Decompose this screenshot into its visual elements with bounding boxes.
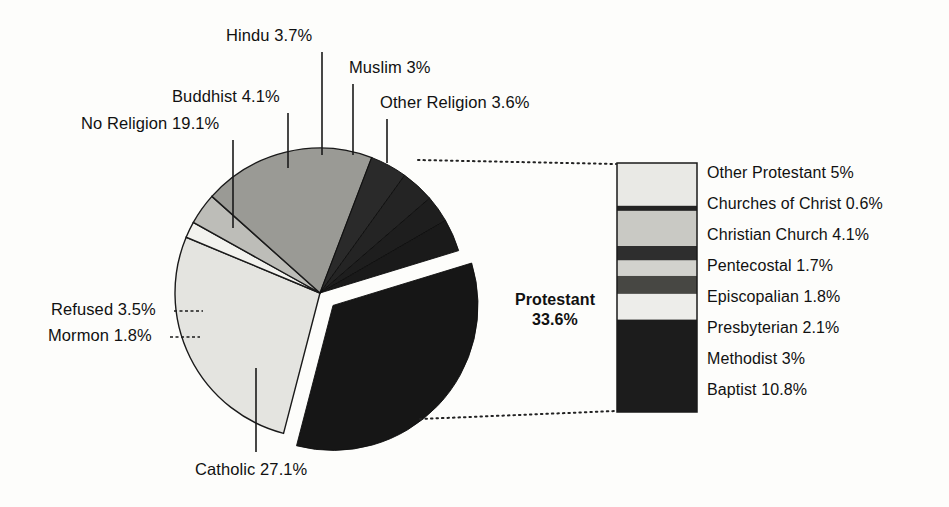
label-buddhist: Buddhist 4.1% [172,87,280,105]
label-hindu: Hindu 3.7% [226,26,312,44]
bar-segment-methodist[interactable] [617,294,697,320]
connector-bottom [420,411,616,419]
bar-segment-pentecostal[interactable] [617,246,697,261]
legend-item-churches-of-christ: Churches of Christ 0.6% [707,195,883,213]
bar-segment-christian-church[interactable] [617,211,697,246]
chart-canvas [0,0,949,507]
bar-segment-churches-of-christ[interactable] [617,206,697,211]
legend-item-episcopalian: Episcopalian 1.8% [707,288,840,306]
label-refused: Refused 3.5% [51,300,156,318]
label-muslim: Muslim 3% [349,58,431,76]
legend-item-christian-church: Christian Church 4.1% [707,226,869,244]
legend-item-baptist: Baptist 10.8% [707,381,807,399]
bar-segment-presbyterian[interactable] [617,276,697,294]
label-no-religion: No Religion 19.1% [81,114,219,132]
label-protestant-name: Protestant [515,291,595,308]
legend-item-other-protestant: Other Protestant 5% [707,164,854,182]
label-catholic: Catholic 27.1% [195,460,307,478]
pie-group [175,148,478,450]
pie-chart-figure: No Religion 19.1% Buddhist 4.1% Hindu 3.… [0,0,949,507]
bar-segment-other-protestant[interactable] [617,163,697,206]
label-other-religion: Other Religion 3.6% [380,93,530,111]
label-mormon: Mormon 1.8% [48,326,152,344]
label-protestant: Protestant 33.6% [500,290,610,330]
protestant-stacked-bar [617,163,697,412]
connector-top [418,160,616,164]
bar-segment-baptist[interactable] [617,320,697,412]
legend-item-methodist: Methodist 3% [707,350,805,368]
bar-segment-episcopalian[interactable] [617,261,697,276]
label-protestant-value: 33.6% [532,311,578,328]
legend-item-presbyterian: Presbyterian 2.1% [707,319,839,337]
legend-item-pentecostal: Pentecostal 1.7% [707,257,833,275]
